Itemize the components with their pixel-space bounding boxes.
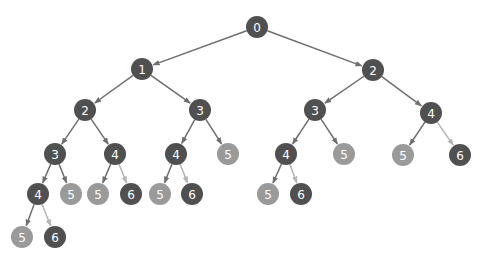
tree-node: 6 — [120, 183, 142, 205]
node-label: 1 — [138, 63, 146, 77]
tree-node: 4 — [420, 102, 442, 124]
node-label: 2 — [369, 64, 377, 78]
node-label: 5 — [67, 188, 75, 202]
tree-node: 6 — [44, 226, 66, 248]
tree-node: 2 — [362, 59, 384, 81]
node-label: 6 — [456, 149, 464, 163]
node-label: 4 — [172, 148, 180, 162]
edge-arrow — [103, 164, 111, 183]
tree-node: 6 — [449, 144, 471, 166]
edge-arrow — [151, 75, 190, 103]
node-label: 4 — [282, 148, 290, 162]
node-label: 2 — [81, 104, 89, 118]
node-label: 4 — [111, 148, 119, 162]
edge-arrow — [293, 119, 309, 144]
tree-node: 5 — [392, 144, 414, 166]
node-label: 5 — [18, 231, 26, 245]
node-label: 3 — [196, 104, 204, 118]
edge-arrow — [43, 164, 51, 183]
node-label: 3 — [311, 104, 319, 118]
node-label: 5 — [224, 148, 232, 162]
node-label: 5 — [94, 188, 102, 202]
tree-node: 5 — [87, 183, 109, 205]
tree-node: 3 — [189, 99, 211, 121]
edge-arrow — [26, 204, 34, 225]
edge-arrow — [273, 164, 282, 183]
tree-node: 0 — [246, 16, 268, 38]
edge-arrow — [59, 164, 66, 183]
edge-arrow — [153, 31, 246, 65]
edge-arrow — [267, 31, 361, 66]
edge-arrow — [95, 75, 133, 103]
edge-arrow — [42, 204, 51, 226]
tree-node: 4 — [104, 143, 126, 165]
tree-node: 5 — [60, 183, 82, 205]
node-label: 5 — [156, 188, 164, 202]
tree-node: 4 — [275, 143, 297, 165]
tree-node: 4 — [27, 183, 49, 205]
edge-arrow — [325, 76, 364, 103]
tree-node: 1 — [131, 58, 153, 80]
tree-node: 3 — [304, 99, 326, 121]
node-label: 5 — [264, 188, 272, 202]
edge-arrow — [382, 77, 422, 106]
tree-diagram: 0122334344545564556565656 — [0, 0, 483, 261]
nodes-layer: 0122334344545564556565656 — [11, 16, 471, 248]
tree-node: 5 — [11, 226, 33, 248]
tree-node: 6 — [181, 183, 203, 205]
node-label: 6 — [297, 188, 305, 202]
edge-arrow — [62, 119, 79, 144]
node-label: 6 — [188, 188, 196, 202]
edge-arrow — [182, 120, 195, 144]
node-label: 3 — [51, 148, 59, 162]
edge-arrow — [180, 164, 187, 183]
edge-arrow — [437, 122, 453, 145]
edge-arrow — [119, 164, 126, 183]
tree-node: 5 — [257, 183, 279, 205]
node-label: 0 — [253, 21, 261, 35]
node-label: 5 — [399, 149, 407, 163]
edge-arrow — [91, 119, 108, 144]
edge-arrow — [164, 164, 171, 183]
node-label: 5 — [340, 148, 348, 162]
tree-node: 6 — [290, 183, 312, 205]
node-label: 6 — [51, 231, 59, 245]
node-label: 4 — [34, 188, 42, 202]
tree-node: 4 — [165, 143, 187, 165]
edge-arrow — [321, 119, 337, 144]
edge-arrow — [410, 122, 425, 145]
edge-arrow — [206, 119, 222, 144]
tree-node: 5 — [217, 143, 239, 165]
edge-arrow — [290, 164, 297, 182]
tree-node: 2 — [74, 99, 96, 121]
node-label: 4 — [427, 107, 435, 121]
tree-node: 5 — [333, 143, 355, 165]
tree-node: 3 — [44, 143, 66, 165]
tree-node: 5 — [149, 183, 171, 205]
node-label: 6 — [127, 188, 135, 202]
